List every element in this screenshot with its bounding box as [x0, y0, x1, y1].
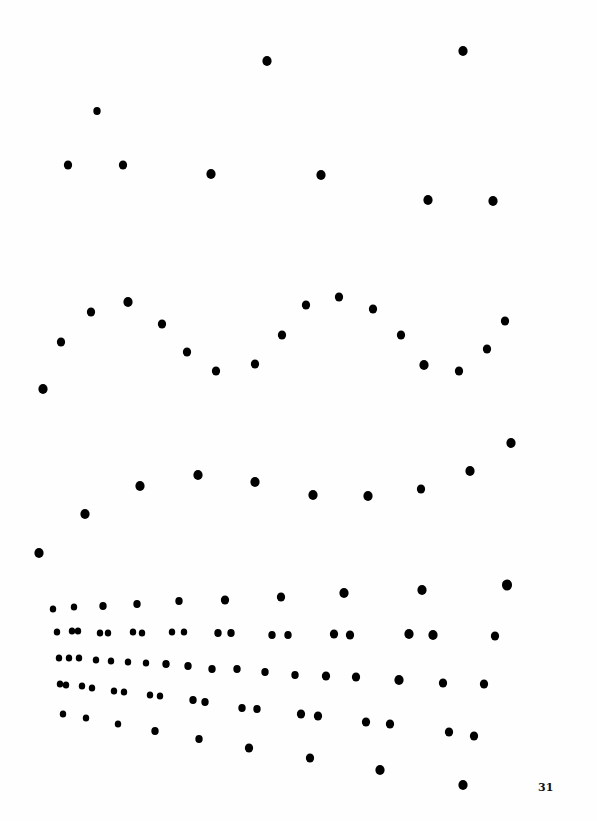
dot [54, 629, 60, 636]
dot [335, 293, 343, 302]
dot [80, 509, 89, 519]
dot [79, 683, 85, 690]
dot [125, 659, 131, 666]
dot [251, 360, 259, 369]
dot [455, 367, 463, 376]
dot [322, 672, 330, 681]
dot [330, 630, 338, 639]
page-number: 31 [538, 781, 553, 794]
dot [214, 629, 221, 637]
dot [183, 348, 191, 357]
dot [417, 485, 425, 494]
dot [227, 629, 234, 637]
dot [93, 107, 100, 115]
dot [57, 338, 65, 347]
dot [316, 170, 325, 180]
dot [417, 585, 426, 595]
dot [97, 630, 103, 637]
dot [369, 305, 377, 314]
dot [397, 331, 405, 340]
dot [139, 630, 145, 637]
dot [488, 196, 497, 206]
dot [470, 732, 478, 741]
dot [99, 602, 106, 610]
rising-curve-dots [34, 438, 515, 558]
dot [158, 320, 166, 329]
dot [83, 715, 89, 722]
dot [89, 685, 95, 692]
dot [253, 705, 260, 713]
dot [245, 744, 253, 753]
dot [352, 673, 360, 682]
dot [201, 698, 208, 706]
dot [123, 297, 132, 307]
dot [60, 711, 66, 718]
dot [284, 631, 291, 639]
dot [491, 632, 499, 641]
dot [75, 628, 81, 635]
dot [302, 301, 310, 310]
dot [394, 675, 403, 685]
dot [115, 721, 121, 728]
scattered-dots [64, 46, 498, 206]
dot [189, 696, 196, 704]
dot [133, 600, 140, 608]
dot [151, 727, 158, 735]
dot [108, 658, 114, 665]
dot [169, 629, 175, 636]
dot [362, 718, 370, 727]
dot [147, 692, 153, 699]
dot [193, 470, 202, 480]
dot [423, 195, 432, 205]
dot [346, 631, 354, 640]
dot [262, 56, 271, 66]
dot [195, 735, 202, 743]
dot [506, 438, 515, 448]
dot [465, 466, 474, 476]
dot [111, 688, 117, 695]
dot [363, 491, 372, 501]
dot [34, 548, 43, 558]
dot [206, 169, 215, 179]
dot [404, 629, 413, 639]
dot [105, 630, 111, 637]
dot [69, 628, 75, 635]
dot [375, 765, 384, 775]
dot [57, 681, 63, 688]
dot [175, 597, 182, 605]
dot [56, 655, 62, 662]
dot [71, 604, 77, 611]
dot [87, 308, 95, 317]
dot [76, 655, 82, 662]
dot [143, 660, 149, 667]
dot [297, 710, 305, 719]
dot [314, 712, 322, 721]
dot [483, 345, 491, 354]
dot [419, 360, 428, 370]
dot [212, 367, 220, 376]
dot [386, 720, 394, 729]
dot [439, 679, 447, 688]
dot-figure-canvas [0, 0, 597, 821]
dot [308, 490, 317, 500]
dot [181, 629, 187, 636]
dot [221, 596, 229, 605]
dot [135, 481, 144, 491]
dot [458, 46, 467, 56]
dot [157, 693, 163, 700]
dot [184, 662, 191, 670]
dot [502, 580, 512, 591]
dot [339, 588, 348, 598]
dot [291, 671, 298, 679]
dot [50, 606, 56, 613]
dot-rows [50, 580, 512, 791]
dot [119, 161, 127, 170]
page: 31 [0, 0, 597, 821]
dot [501, 317, 509, 326]
dot [130, 629, 136, 636]
dot [268, 631, 275, 639]
dot [64, 161, 72, 170]
dot [121, 689, 127, 696]
dot [261, 668, 268, 676]
dot [238, 704, 245, 712]
